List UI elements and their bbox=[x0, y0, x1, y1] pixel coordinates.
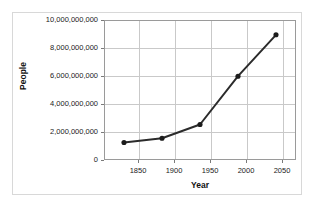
data-point-2000 bbox=[235, 74, 240, 79]
y-tick-label-8b: 8,000,000,000 bbox=[20, 44, 98, 52]
y-tick-label-2b: 2,000,000,000 bbox=[20, 128, 98, 136]
data-point-1900 bbox=[159, 136, 164, 141]
series-line-people bbox=[105, 21, 295, 159]
y-tick-label-0: 0 bbox=[20, 156, 98, 164]
y-axis-title: People bbox=[18, 62, 28, 90]
data-point-1850 bbox=[121, 140, 126, 145]
x-tick-mark-1850 bbox=[138, 160, 139, 163]
x-tick-mark-2000 bbox=[246, 160, 247, 163]
y-tick-label-10b: 10,000,000,000 bbox=[20, 16, 98, 24]
x-tick-mark-2050 bbox=[282, 160, 283, 163]
x-tick-label-2050: 2050 bbox=[262, 166, 302, 175]
x-axis-title: Year bbox=[104, 180, 296, 190]
x-tick-label-2000: 2000 bbox=[226, 166, 266, 175]
x-tick-mark-1900 bbox=[174, 160, 175, 163]
x-tick-mark-1950 bbox=[210, 160, 211, 163]
chart-figure: 10,000,000,000 8,000,000,000 6,000,000,0… bbox=[0, 0, 313, 208]
y-tick-label-6b: 6,000,000,000 bbox=[20, 72, 98, 80]
x-tick-label-1950: 1950 bbox=[190, 166, 230, 175]
y-tick-label-4b: 4,000,000,000 bbox=[20, 100, 98, 108]
data-point-1950 bbox=[197, 122, 202, 127]
series-markers bbox=[121, 32, 278, 145]
y-tick-mark-0 bbox=[101, 160, 104, 161]
x-tick-label-1850: 1850 bbox=[118, 166, 158, 175]
data-point-2050 bbox=[273, 32, 278, 37]
x-tick-label-1900: 1900 bbox=[154, 166, 194, 175]
plot-area bbox=[104, 20, 296, 160]
